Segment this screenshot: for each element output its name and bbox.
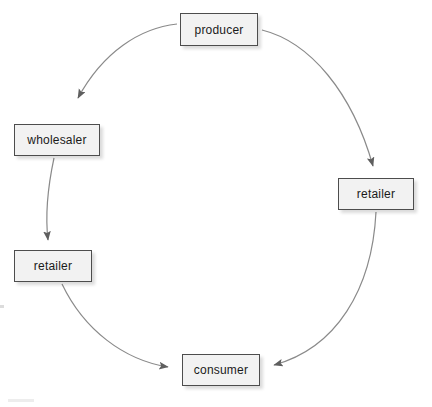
node-wholesaler[interactable]: wholesaler <box>14 124 100 156</box>
node-producer[interactable]: producer <box>180 13 258 46</box>
edge-retailer-left-to-consumer <box>62 284 168 367</box>
node-consumer-label: consumer <box>194 364 248 376</box>
edge-wholesaler-to-retailer-left <box>47 158 54 240</box>
node-consumer[interactable]: consumer <box>182 354 260 386</box>
node-retailer-right[interactable]: retailer <box>338 178 414 210</box>
edge-retailer-right-to-consumer <box>274 212 376 365</box>
node-retailer-left[interactable]: retailer <box>14 250 92 282</box>
edge-artifact-left <box>0 305 4 308</box>
node-producer-label: producer <box>195 24 244 36</box>
node-retailer-right-label: retailer <box>357 188 395 200</box>
edge-producer-to-retailer-right <box>262 30 373 166</box>
page-artifact-bottom <box>8 399 34 402</box>
diagram-canvas: producer wholesaler retailer retailer co… <box>0 0 432 407</box>
node-wholesaler-label: wholesaler <box>27 134 86 146</box>
node-retailer-left-label: retailer <box>34 260 72 272</box>
edge-producer-to-wholesaler <box>78 24 177 98</box>
